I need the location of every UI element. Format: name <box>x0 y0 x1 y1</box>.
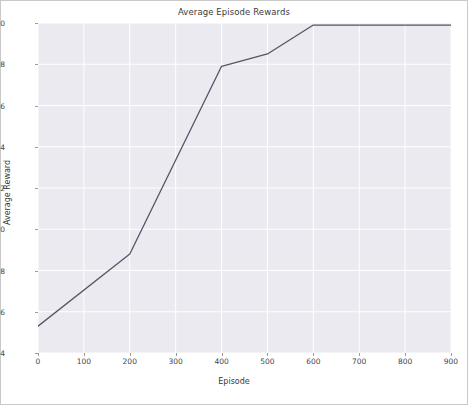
y-tick-mark <box>35 271 38 272</box>
y-tick-label: 2.8 <box>0 60 5 69</box>
data-series-line <box>38 23 451 353</box>
y-tick-mark <box>35 64 38 65</box>
x-tick-mark <box>313 353 314 356</box>
y-tick-mark <box>35 312 38 313</box>
x-tick-label: 600 <box>293 357 333 366</box>
y-tick-mark <box>35 229 38 230</box>
x-tick-label: 0 <box>18 357 58 366</box>
x-tick-label: 700 <box>339 357 379 366</box>
series-line-average-reward <box>38 25 451 326</box>
x-tick-mark <box>222 353 223 356</box>
y-tick-label: 2.0 <box>0 225 5 234</box>
y-tick-label: 1.8 <box>0 266 5 275</box>
y-tick-mark <box>35 188 38 189</box>
x-tick-label: 200 <box>110 357 150 366</box>
x-tick-mark <box>176 353 177 356</box>
x-tick-mark <box>359 353 360 356</box>
x-tick-label: 800 <box>385 357 425 366</box>
y-axis-label: Average Reward <box>3 113 12 273</box>
x-tick-mark <box>405 353 406 356</box>
x-tick-mark <box>38 353 39 356</box>
x-tick-label: 500 <box>247 357 287 366</box>
x-tick-label: 400 <box>202 357 242 366</box>
x-tick-label: 300 <box>156 357 196 366</box>
x-tick-label: 100 <box>64 357 104 366</box>
y-tick-label: 3.0 <box>0 19 5 28</box>
y-tick-mark <box>35 147 38 148</box>
y-tick-label: 1.4 <box>0 349 5 358</box>
plot-area <box>38 23 451 353</box>
x-axis-label: Episode <box>1 377 467 386</box>
x-tick-mark <box>267 353 268 356</box>
x-tick-mark <box>451 353 452 356</box>
y-tick-label: 2.2 <box>0 184 5 193</box>
y-tick-mark <box>35 23 38 24</box>
x-tick-mark <box>84 353 85 356</box>
y-tick-label: 2.4 <box>0 142 5 151</box>
x-tick-label: 900 <box>431 357 468 366</box>
y-tick-label: 1.6 <box>0 307 5 316</box>
y-tick-mark <box>35 106 38 107</box>
y-tick-label: 2.6 <box>0 101 5 110</box>
chart-figure: Average Episode Rewards Average Reward E… <box>0 0 468 405</box>
chart-title: Average Episode Rewards <box>1 7 467 17</box>
x-tick-mark <box>130 353 131 356</box>
